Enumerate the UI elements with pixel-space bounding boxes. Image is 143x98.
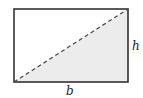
rectangle-diagram: h b: [0, 0, 143, 98]
height-label: h: [132, 39, 140, 53]
base-label: b: [66, 84, 74, 98]
